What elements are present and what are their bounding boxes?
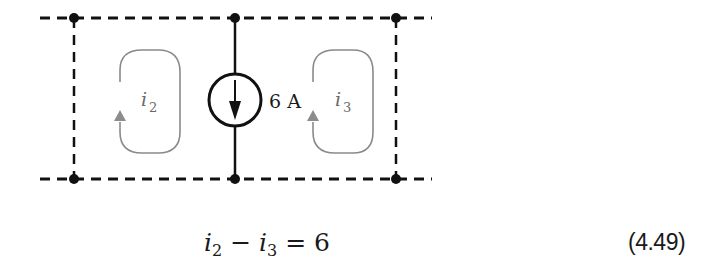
node-bottom-center bbox=[230, 174, 240, 184]
eq-var-a-sub: 2 bbox=[212, 241, 222, 260]
eq-equals: = bbox=[277, 228, 314, 257]
current-source bbox=[209, 74, 261, 126]
constraint-equation: i2 − i3 = 6 bbox=[204, 228, 330, 260]
node-top-center bbox=[230, 13, 240, 23]
mesh-arrow-up-icon bbox=[307, 110, 319, 121]
eq-rhs: 6 bbox=[314, 228, 330, 257]
mesh-loop-i2: i 2 bbox=[114, 50, 180, 153]
source-label: 6 A bbox=[269, 90, 301, 112]
node-top-left bbox=[69, 13, 79, 23]
svg-text:2: 2 bbox=[149, 100, 157, 115]
svg-text:3: 3 bbox=[343, 100, 351, 115]
node-bottom-left bbox=[69, 174, 79, 184]
equation-number: (4.49) bbox=[628, 229, 685, 256]
eq-minus: − bbox=[222, 228, 259, 257]
svg-text:i: i bbox=[335, 88, 341, 110]
eq-var-b-sub: 3 bbox=[267, 241, 277, 260]
eq-var-a: i bbox=[204, 228, 212, 257]
svg-text:i: i bbox=[141, 88, 147, 110]
mesh-loop-i3: i 3 bbox=[307, 50, 373, 153]
eq-var-b: i bbox=[259, 228, 267, 257]
circuit-diagram: 6 A i 2 i 3 bbox=[0, 0, 713, 220]
node-top-right bbox=[391, 13, 401, 23]
node-bottom-right bbox=[391, 174, 401, 184]
mesh-arrow-up-icon bbox=[114, 110, 126, 121]
